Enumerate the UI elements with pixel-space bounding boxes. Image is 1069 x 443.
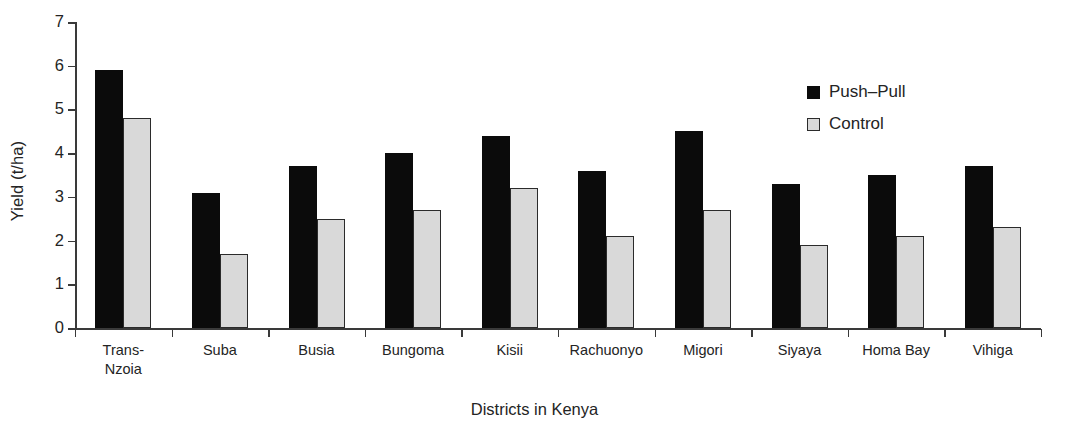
x-axis-tick: [848, 329, 849, 337]
bar-group: [868, 22, 924, 328]
x-axis-tick: [751, 329, 752, 337]
legend-swatch-icon: [807, 86, 820, 99]
bar: [220, 254, 248, 328]
x-axis-tick: [365, 329, 366, 337]
x-axis-tick: [172, 329, 173, 337]
bar: [192, 193, 220, 329]
bar: [482, 136, 510, 328]
legend-label: Control: [829, 114, 884, 134]
y-axis-tick-label: 4: [42, 143, 64, 162]
x-axis-category-label: Busia: [268, 341, 365, 360]
legend-item: Control: [807, 108, 906, 140]
x-axis-tick: [268, 329, 269, 337]
x-axis-tick: [558, 329, 559, 337]
x-axis-category-label: Migori: [655, 341, 752, 360]
y-axis-tick: [68, 284, 75, 286]
bar: [868, 175, 896, 328]
y-axis-tick: [68, 22, 75, 24]
x-axis-category-label: Rachuonyo: [558, 341, 655, 360]
legend-label: Push–Pull: [829, 82, 906, 102]
bar: [800, 245, 828, 328]
y-axis-tick-label: 5: [42, 99, 64, 118]
bar: [896, 236, 924, 328]
bar: [965, 166, 993, 328]
bar-group: [192, 22, 248, 328]
bar: [510, 188, 538, 328]
y-axis-tick: [68, 109, 75, 111]
bar: [606, 236, 634, 328]
y-axis-tick-label: 3: [42, 187, 64, 206]
x-axis-category-label: Bungoma: [365, 341, 462, 360]
x-axis-category-label: Suba: [172, 341, 269, 360]
bar: [772, 184, 800, 328]
bar: [993, 227, 1021, 328]
legend-swatch-icon: [807, 118, 820, 131]
bar: [95, 70, 123, 328]
bar: [675, 131, 703, 328]
bar: [578, 171, 606, 328]
x-axis-tick: [1041, 329, 1042, 337]
bar-group: [385, 22, 441, 328]
plot-area: [75, 22, 1041, 328]
bar: [413, 210, 441, 328]
bar-group: [578, 22, 634, 328]
y-axis-tick-label: 0: [42, 318, 64, 337]
bar-group: [482, 22, 538, 328]
y-axis-tick-label: 7: [42, 12, 64, 31]
bar-group: [289, 22, 345, 328]
bar-group: [675, 22, 731, 328]
y-axis-tick-label: 1: [42, 274, 64, 293]
y-axis-tick: [68, 197, 75, 199]
x-axis-category-label: Homa Bay: [848, 341, 945, 360]
y-axis-tick-label: 2: [42, 231, 64, 250]
bar: [385, 153, 413, 328]
legend-item: Push–Pull: [807, 76, 906, 108]
x-axis-tick: [655, 329, 656, 337]
bar: [289, 166, 317, 328]
y-axis-title: Yield (t/ha): [0, 16, 34, 346]
x-axis-category-label: Kisii: [461, 341, 558, 360]
x-axis-tick: [461, 329, 462, 337]
y-axis-tick: [68, 241, 75, 243]
x-axis-title: Districts in Kenya: [0, 400, 1069, 419]
y-axis-tick: [68, 66, 75, 68]
x-axis-category-label: Siyaya: [751, 341, 848, 360]
x-axis-tick: [944, 329, 945, 337]
y-axis-tick: [68, 328, 75, 330]
x-axis-tick: [75, 329, 76, 337]
x-axis-category-label: Vihiga: [944, 341, 1041, 360]
x-axis-category-label: Trans- Nzoia: [75, 341, 172, 379]
y-axis-tick: [68, 153, 75, 155]
bar: [703, 210, 731, 328]
bar-group: [95, 22, 151, 328]
bar-group: [772, 22, 828, 328]
y-axis-tick-label: 6: [42, 56, 64, 75]
bar-chart-figure: Yield (t/ha) 01234567 Trans- NzoiaSubaBu…: [0, 0, 1069, 443]
bar: [123, 118, 151, 328]
bar: [317, 219, 345, 328]
chart-legend: Push–PullControl: [807, 76, 906, 140]
bar-group: [965, 22, 1021, 328]
